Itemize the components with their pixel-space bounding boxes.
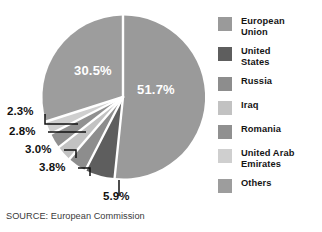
slice-label-russia: 3.8% <box>39 161 66 173</box>
slice-label-european-union: 51.7% <box>137 82 175 97</box>
legend-label-others: Others <box>241 178 272 189</box>
legend-swatch-european-union <box>218 17 232 31</box>
legend-item-iraq[interactable]: Iraq <box>218 100 322 118</box>
slice-label-united-states: 5.9% <box>103 190 130 202</box>
chart-legend: European Union United States Russia Iraq… <box>218 16 322 202</box>
slice-label-others: 30.5% <box>74 63 112 78</box>
legend-item-russia[interactable]: Russia <box>218 76 322 94</box>
source-note: SOURCE: European Commission <box>6 211 145 221</box>
slice-label-romania: 2.8% <box>9 125 36 137</box>
legend-item-romania[interactable]: Romania <box>218 124 322 142</box>
slice-label-united-arab-emirates: 2.3% <box>7 105 34 117</box>
legend-swatch-iraq <box>218 101 232 115</box>
legend-label-united-states: United States <box>241 46 271 67</box>
legend-swatch-romania <box>218 125 232 139</box>
legend-label-iraq: Iraq <box>241 100 258 111</box>
legend-swatch-united-states <box>218 47 232 61</box>
legend-item-united-states[interactable]: United States <box>218 46 322 70</box>
legend-swatch-others <box>218 179 232 193</box>
legend-label-romania: Romania <box>241 124 281 135</box>
legend-swatch-russia <box>218 77 232 91</box>
legend-item-united-arab-emirates[interactable]: United Arab Emirates <box>218 148 322 172</box>
slice-label-iraq: 3.0% <box>25 143 52 155</box>
legend-swatch-united-arab-emirates <box>218 149 232 163</box>
legend-item-european-union[interactable]: European Union <box>218 16 322 40</box>
legend-label-united-arab-emirates: United Arab Emirates <box>241 148 294 169</box>
pie-chart: 30.5% 51.7% 2.3% 2.8% 3.0% 3.8% 5.9% Eur… <box>0 0 322 232</box>
legend-label-european-union: European Union <box>241 16 285 37</box>
legend-label-russia: Russia <box>241 76 272 87</box>
legend-item-others[interactable]: Others <box>218 178 322 196</box>
